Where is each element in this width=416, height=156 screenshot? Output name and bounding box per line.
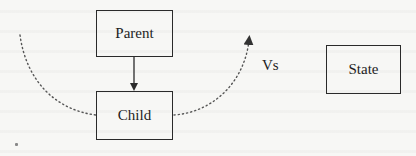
node-state: State — [326, 45, 401, 94]
node-state-label: State — [349, 61, 379, 78]
node-parent: Parent — [96, 10, 173, 57]
dotted-arc-left — [20, 35, 96, 115]
node-parent-label: Parent — [115, 25, 153, 42]
diagram-canvas: Parent Child State Vs — [0, 0, 416, 156]
versus-label: Vs — [262, 57, 279, 74]
node-child-label: Child — [118, 107, 151, 124]
dotted-arc-right — [174, 40, 249, 115]
node-child: Child — [96, 91, 173, 140]
scan-speck — [15, 143, 18, 146]
